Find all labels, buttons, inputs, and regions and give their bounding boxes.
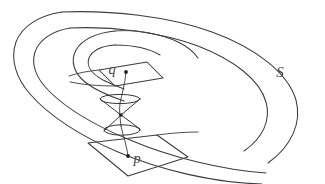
label-q: q — [108, 61, 115, 77]
light-cone-lower-left-side — [104, 115, 121, 131]
lower-tangent-plane-flag — [88, 132, 198, 176]
lower-event-dot-p — [126, 154, 130, 158]
upper-event-dot-q — [124, 70, 128, 74]
spiral-inner-coil-right-arc — [149, 33, 198, 58]
light-cone-apex-dot — [119, 113, 122, 116]
spiral-inner-right-sweep — [70, 28, 267, 151]
upper-tangent-plane-flag — [69, 62, 163, 86]
worldline-lower-segment — [121, 126, 128, 156]
figure-canvas: q p S — [0, 0, 325, 184]
spiral-band-surface — [14, 12, 298, 184]
light-cone-upper-left-side — [100, 99, 121, 115]
lower-flag-right-taper — [157, 132, 198, 135]
spiral-diagram-svg: q p S — [0, 0, 325, 184]
spiral-inner-coil-edge — [73, 31, 124, 101]
label-p: p — [132, 150, 140, 166]
spiral-inner-coil-right-arc-lower — [115, 45, 160, 55]
surface-label-S: S — [276, 64, 284, 80]
upper-flag-left-taper — [69, 70, 99, 76]
double-light-cone — [100, 94, 140, 135]
